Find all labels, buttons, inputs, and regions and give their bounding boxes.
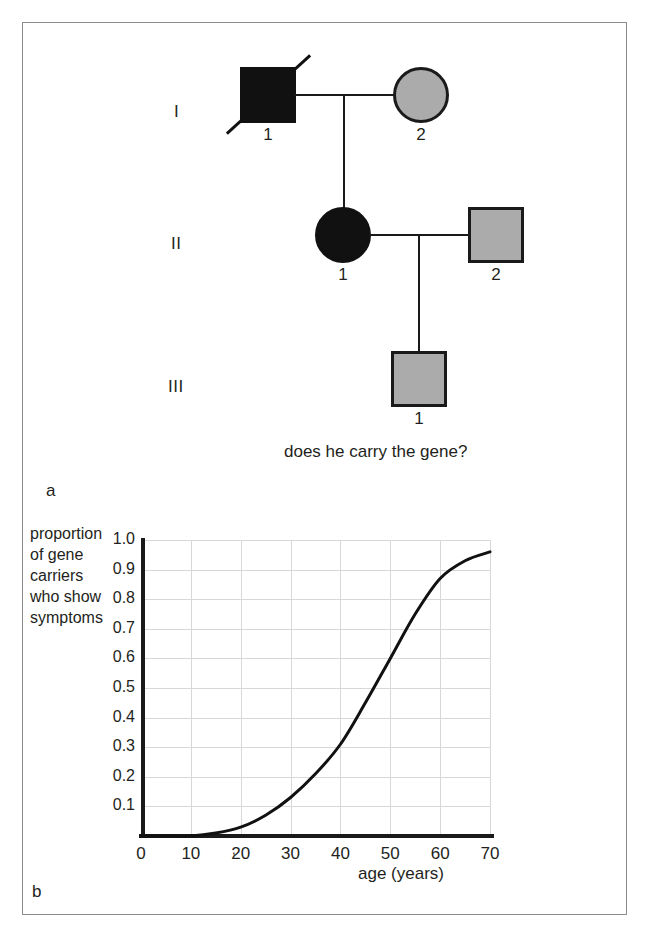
chart-x-axis-tick-mark: , <box>232 842 236 857</box>
chart-y-tick-label: 0.1 <box>101 796 135 814</box>
chart-gridline-vertical <box>490 540 491 836</box>
chart-data-curve <box>141 540 490 836</box>
chart-y-tick-label: 0.3 <box>101 737 135 755</box>
chart-x-tick-label: 70 <box>473 844 507 864</box>
chart-x-tick-label: 10 <box>174 844 208 864</box>
chart-y-tick-label: 0.4 <box>101 708 135 726</box>
chart-y-tick-label: 0.8 <box>101 589 135 607</box>
chart-y-tick-label: 0.2 <box>101 767 135 785</box>
chart-x-tick-label: 60 <box>423 844 457 864</box>
chart-y-tick-label: 0.7 <box>101 619 135 637</box>
chart-x-tick-label: 20 <box>224 844 258 864</box>
chart-x-axis-title: age (years) <box>358 864 444 884</box>
chart-x-tick-label: 0 <box>124 844 158 864</box>
chart-x-tick-label: 50 <box>373 844 407 864</box>
chart-y-tick-label: 0.5 <box>101 678 135 696</box>
chart-panel: proportion of gene carriers who show sym… <box>0 0 651 939</box>
chart-y-tick-label: 0.9 <box>101 560 135 578</box>
chart-y-tick-label: 1.0 <box>101 530 135 548</box>
chart-y-tick-label: 0.6 <box>101 648 135 666</box>
chart-x-tick-label: 30 <box>274 844 308 864</box>
chart-x-tick-label: 40 <box>323 844 357 864</box>
figure-container: I II III 1 2 1 2 1 does he carry the gen… <box>0 0 651 939</box>
